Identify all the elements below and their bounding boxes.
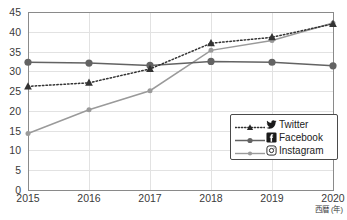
facebook-line-swatch	[235, 132, 265, 143]
twitter-line-swatch	[235, 119, 265, 130]
legend-item-twitter[interactable]: Twitter	[235, 118, 333, 131]
x-tick-label: 2020	[310, 193, 347, 204]
x-tick-label: 2017	[127, 193, 173, 204]
gridline-h	[29, 91, 333, 92]
x-axis-title: 西暦 (年)	[315, 206, 343, 214]
y-tick-label: 40	[0, 27, 21, 38]
y-tick-label: 45	[0, 7, 21, 18]
gridline-v	[211, 13, 212, 190]
gridline-v	[89, 13, 90, 190]
legend-item-facebook[interactable]: Facebook	[235, 131, 333, 144]
instagram-camera-icon	[266, 145, 277, 156]
gridline-h	[29, 52, 333, 53]
gridline-v	[272, 13, 273, 190]
gridline-h	[29, 111, 333, 112]
plot-frame-top	[28, 12, 334, 13]
y-tick-label: 15	[0, 126, 21, 137]
legend-label-instagram: Instagram	[279, 145, 323, 156]
x-tick-label: 2015	[5, 193, 51, 204]
y-tick-label: 20	[0, 106, 21, 117]
gridline-h	[29, 170, 333, 171]
x-tick-label: 2018	[188, 193, 234, 204]
instagram-line-swatch	[235, 145, 265, 156]
plot-area	[28, 12, 333, 190]
y-tick-label: 35	[0, 47, 21, 58]
y-tick-label: 5	[0, 165, 21, 176]
x-tick-label: 2016	[66, 193, 112, 204]
legend-item-instagram[interactable]: Instagram	[235, 144, 333, 157]
legend-label-facebook: Facebook	[279, 132, 323, 143]
gridline-h	[29, 71, 333, 72]
y-tick-label: 10	[0, 145, 21, 156]
gridline-h	[29, 32, 333, 33]
legend[interactable]: Twitter Facebook	[230, 114, 338, 160]
gridline-v	[150, 13, 151, 190]
x-tick-label: 2019	[249, 193, 295, 204]
x-axis-line	[28, 190, 334, 191]
plot-frame-right	[333, 12, 334, 191]
legend-label-twitter: Twitter	[279, 119, 308, 130]
line-chart: 051015202530354045 201520162017201820192…	[0, 0, 347, 220]
y-axis-line	[28, 12, 29, 191]
y-tick-label: 30	[0, 66, 21, 77]
twitter-bird-icon	[266, 119, 277, 130]
facebook-f-icon	[266, 132, 277, 143]
y-tick-label: 25	[0, 86, 21, 97]
